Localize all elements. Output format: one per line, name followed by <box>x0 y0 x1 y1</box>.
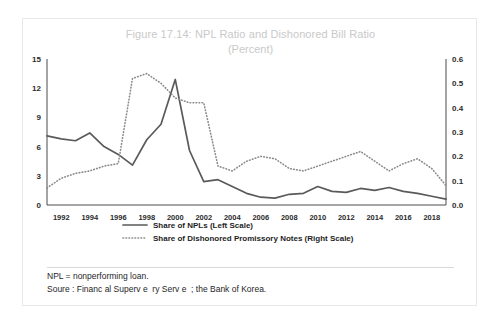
right-axis-tick-0.6: 0.6 <box>452 55 464 64</box>
x-axis-tick-2008: 2008 <box>281 213 298 222</box>
left-axis-tick-labels: 03691215 <box>32 55 41 210</box>
right-axis-tick-0.0: 0.0 <box>452 201 464 210</box>
legend-label-1: Share of Dishonored Promissory Notes (Ri… <box>153 234 354 243</box>
figure-notes: NPL = nonperforming loan. Soure : Financ… <box>47 270 457 296</box>
series-line-0 <box>47 79 446 199</box>
chart-plot: 03691215 0.00.10.20.30.40.50.6 199219941… <box>23 19 478 269</box>
right-axis-tick-0.3: 0.3 <box>452 128 464 137</box>
legend-label-0: Share of NPLs (Left Scale) <box>153 221 253 230</box>
right-axis-tick-0.1: 0.1 <box>452 177 464 186</box>
x-axis-tick-2018: 2018 <box>423 213 440 222</box>
x-axis-tick-2010: 2010 <box>309 213 326 222</box>
figure-card: Figure 17.14: NPL Ratio and Dishonored B… <box>22 18 477 306</box>
x-axis-tick-1996: 1996 <box>110 213 127 222</box>
axes <box>47 59 446 205</box>
note-line-npl: NPL = nonperforming loan. <box>47 270 457 283</box>
right-axis-tick-labels: 0.00.10.20.30.40.50.6 <box>452 55 464 210</box>
right-axis-tick-0.2: 0.2 <box>452 152 464 161</box>
x-axis-tick-1994: 1994 <box>81 213 99 222</box>
left-axis-tick-6: 6 <box>37 143 42 152</box>
x-axis-tick-2012: 2012 <box>338 213 355 222</box>
x-axis-tick-2006: 2006 <box>252 213 269 222</box>
notes-divider <box>47 267 454 268</box>
left-axis-tick-0: 0 <box>37 201 42 210</box>
x-axis-tick-1992: 1992 <box>53 213 70 222</box>
chart-legend: Share of NPLs (Left Scale)Share of Disho… <box>123 221 354 243</box>
left-axis-tick-9: 9 <box>37 113 42 122</box>
note-line-source: Soure : Financ al Superv e ry Serv e ; t… <box>47 283 457 296</box>
x-axis-tick-2016: 2016 <box>395 213 412 222</box>
right-axis-tick-0.4: 0.4 <box>452 104 464 113</box>
left-axis-tick-3: 3 <box>37 172 42 181</box>
right-axis-tick-0.5: 0.5 <box>452 79 464 88</box>
series-line-1 <box>47 74 446 188</box>
x-axis-tick-2014: 2014 <box>366 213 384 222</box>
left-axis-tick-15: 15 <box>32 55 41 64</box>
series-lines <box>47 74 446 200</box>
left-axis-tick-12: 12 <box>32 84 41 93</box>
